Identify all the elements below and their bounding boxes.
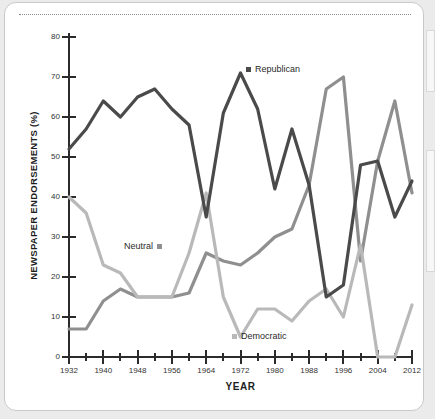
legend-swatch-neutral — [157, 244, 162, 249]
legend-republican: Republican — [246, 64, 300, 74]
legend-swatch-republican — [246, 67, 251, 72]
legend-democratic: Democratic — [232, 331, 287, 341]
page-root: 01020304050607080 1932194019481956196419… — [0, 0, 435, 419]
x-axis-title: YEAR — [68, 381, 413, 392]
series-lines — [0, 0, 435, 419]
y-axis-title: NEWSPAPER ENDORSEMENTS (%) — [28, 81, 39, 311]
legend-swatch-democratic — [232, 334, 237, 339]
line-chart: 01020304050607080 1932194019481956196419… — [0, 0, 435, 419]
legend-neutral: Neutral — [124, 241, 162, 251]
legend-label-democratic: Democratic — [241, 331, 287, 341]
legend-label-republican: Republican — [255, 64, 300, 74]
legend-label-neutral: Neutral — [124, 241, 153, 251]
